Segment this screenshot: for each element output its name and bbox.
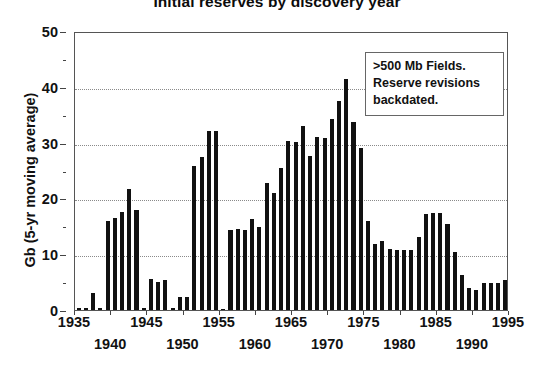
bar bbox=[192, 166, 196, 310]
bar bbox=[301, 126, 305, 310]
bar bbox=[257, 227, 261, 310]
bar bbox=[294, 142, 298, 310]
bar bbox=[373, 244, 377, 310]
x-tick-label: 1975 bbox=[347, 315, 379, 330]
bar bbox=[279, 168, 283, 310]
x-tick-label: 1995 bbox=[492, 315, 524, 330]
bar bbox=[315, 137, 319, 310]
bar bbox=[431, 213, 435, 310]
bar bbox=[106, 221, 110, 310]
annotation-line-3: backdated. bbox=[373, 92, 496, 109]
bar bbox=[163, 280, 167, 310]
bar bbox=[496, 283, 500, 310]
x-tick-mark bbox=[508, 311, 509, 315]
x-axis: 1935194019451950195519601965197019751980… bbox=[74, 311, 508, 361]
bar bbox=[323, 138, 327, 310]
bar bbox=[286, 141, 290, 310]
x-tick-mark bbox=[327, 311, 328, 315]
bar bbox=[98, 308, 102, 310]
bar bbox=[265, 183, 269, 310]
bar bbox=[185, 297, 189, 310]
annotation-box: >500 Mb Fields. Reserve revisions backda… bbox=[365, 52, 504, 116]
x-tick-label: 1935 bbox=[58, 315, 90, 330]
bar bbox=[460, 275, 464, 310]
chart-container: Initial reserves by discovery year 01020… bbox=[0, 0, 554, 368]
bar bbox=[503, 280, 507, 310]
x-tick-label: 1960 bbox=[239, 337, 271, 352]
bar bbox=[359, 148, 363, 310]
x-tick-mark bbox=[146, 311, 147, 315]
y-tick-label: 10 bbox=[42, 248, 58, 263]
x-tick-mark bbox=[110, 311, 111, 315]
x-tick-mark bbox=[363, 311, 364, 315]
y-tick-mark-minor bbox=[63, 172, 66, 173]
bar bbox=[91, 293, 95, 310]
bar bbox=[149, 279, 153, 310]
x-tick-mark bbox=[400, 311, 401, 315]
y-tick-mark-minor bbox=[63, 116, 66, 117]
bar bbox=[113, 218, 117, 310]
bar bbox=[489, 283, 493, 310]
bar bbox=[351, 122, 355, 310]
x-tick-label: 1990 bbox=[456, 337, 488, 352]
bar bbox=[214, 131, 218, 310]
bar bbox=[388, 249, 392, 310]
x-tick-label: 1945 bbox=[130, 315, 162, 330]
y-tick-label: 30 bbox=[42, 136, 58, 151]
bar bbox=[77, 308, 81, 310]
x-tick-mark bbox=[183, 311, 184, 315]
annotation-line-1: >500 Mb Fields. bbox=[373, 58, 496, 75]
y-tick-mark bbox=[60, 311, 66, 312]
bar bbox=[337, 101, 341, 310]
x-tick-mark bbox=[255, 311, 256, 315]
bar bbox=[366, 221, 370, 310]
bar bbox=[402, 250, 406, 310]
bar bbox=[380, 241, 384, 310]
bar bbox=[417, 237, 421, 310]
x-tick-mark bbox=[436, 311, 437, 315]
x-tick-mark bbox=[472, 311, 473, 315]
bar bbox=[438, 213, 442, 310]
bar bbox=[453, 252, 457, 310]
x-tick-label: 1950 bbox=[166, 337, 198, 352]
x-tick-label: 1955 bbox=[203, 315, 235, 330]
bar bbox=[134, 210, 138, 310]
y-tick-label: 20 bbox=[42, 192, 58, 207]
bar bbox=[236, 229, 240, 310]
y-tick-mark-minor bbox=[63, 283, 66, 284]
bar bbox=[142, 308, 146, 310]
bar bbox=[178, 297, 182, 310]
x-tick-label: 1985 bbox=[420, 315, 452, 330]
annotation-line-2: Reserve revisions bbox=[373, 75, 496, 92]
x-tick-label: 1965 bbox=[275, 315, 307, 330]
bar bbox=[272, 193, 276, 310]
bar bbox=[156, 282, 160, 310]
chart-title: Initial reserves by discovery year bbox=[0, 0, 554, 11]
bar bbox=[409, 250, 413, 310]
bar bbox=[445, 224, 449, 310]
y-tick-label: 50 bbox=[42, 25, 58, 40]
x-tick-mark bbox=[219, 311, 220, 315]
bar bbox=[84, 308, 88, 310]
y-tick-mark bbox=[60, 144, 66, 145]
y-tick-mark-minor bbox=[63, 227, 66, 228]
bar bbox=[330, 119, 334, 310]
bar bbox=[228, 230, 232, 310]
bar bbox=[474, 290, 478, 310]
bar bbox=[482, 283, 486, 310]
bar bbox=[127, 189, 131, 310]
bar bbox=[250, 219, 254, 311]
bar bbox=[467, 288, 471, 310]
x-tick-label: 1940 bbox=[94, 337, 126, 352]
x-tick-mark bbox=[291, 311, 292, 315]
bar bbox=[308, 156, 312, 310]
y-tick-mark bbox=[60, 199, 66, 200]
bar bbox=[200, 157, 204, 310]
bar bbox=[207, 131, 211, 310]
y-axis-title: Gb (5-yr moving average) bbox=[22, 64, 38, 296]
bar bbox=[243, 230, 247, 310]
x-tick-mark bbox=[74, 311, 75, 315]
x-tick-label: 1970 bbox=[311, 337, 343, 352]
y-tick-label: 40 bbox=[42, 81, 58, 96]
x-tick-label: 1980 bbox=[383, 337, 415, 352]
